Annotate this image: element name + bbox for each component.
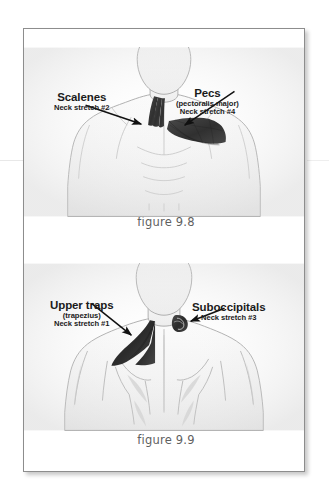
figure-9-9-caption: figure 9.9: [24, 433, 304, 447]
callout-suboccipitals: Suboccipitals Neck stretch #3: [192, 301, 265, 322]
posterior-torso-drawing: [24, 263, 304, 431]
callout-pecs-stretch: Neck stretch #4: [176, 108, 239, 117]
callout-upper-traps-title: Upper traps: [50, 299, 113, 312]
callout-suboccipitals-title: Suboccipitals: [192, 301, 265, 314]
figure-9-9: Upper traps (trapezius) Neck stretch #1 …: [24, 263, 304, 471]
callout-scalenes-title: Scalenes: [54, 91, 109, 104]
figure-9-9-illustration: Upper traps (trapezius) Neck stretch #1 …: [24, 263, 304, 431]
scan-artifact-line-left: [0, 160, 24, 161]
callout-pecs-title: Pecs: [176, 87, 239, 100]
scan-artifact-line-right: [307, 160, 329, 161]
callout-upper-traps: Upper traps (trapezius) Neck stretch #1: [50, 299, 113, 329]
callout-scalenes-stretch: Neck stretch #2: [54, 104, 109, 113]
figure-9-8-caption: figure 9.8: [24, 215, 304, 229]
callout-upper-traps-stretch: Neck stretch #1: [50, 320, 113, 329]
figure-9-8: Scalenes Neck stretch #2 Pecs (pectorali…: [24, 47, 304, 261]
callout-scalenes: Scalenes Neck stretch #2: [54, 91, 109, 112]
book-page-sheet: Scalenes Neck stretch #2 Pecs (pectorali…: [23, 28, 305, 472]
figure-9-8-illustration: Scalenes Neck stretch #2 Pecs (pectorali…: [24, 47, 304, 217]
callout-pecs: Pecs (pectoralis major) Neck stretch #4: [176, 87, 239, 117]
callout-suboccipitals-stretch: Neck stretch #3: [192, 314, 265, 323]
anterior-torso-drawing: [24, 47, 304, 217]
